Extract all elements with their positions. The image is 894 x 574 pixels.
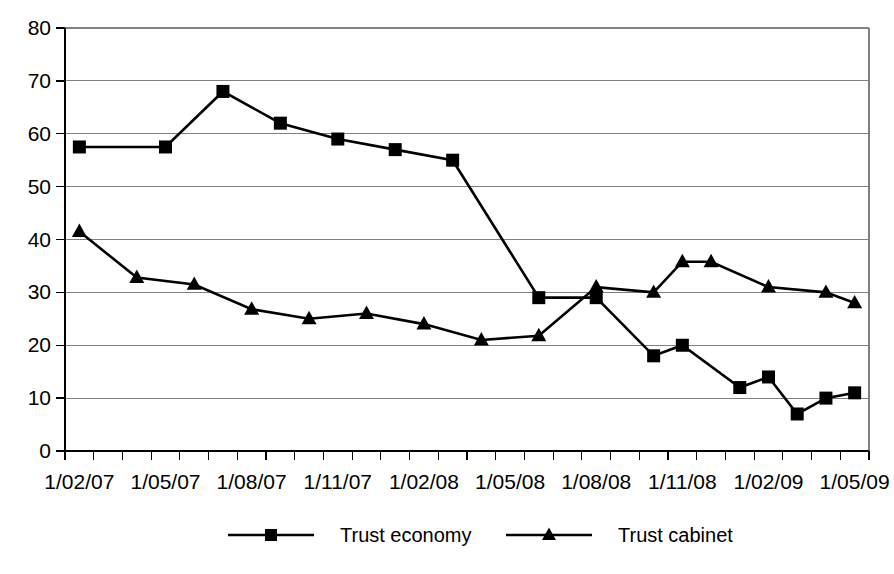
data-point-marker-triangle (542, 528, 556, 541)
data-point-marker-square (159, 140, 172, 153)
data-point-marker-square (532, 291, 545, 304)
data-point-marker-square (274, 117, 287, 130)
y-tick-label: 0 (39, 439, 51, 462)
data-point-marker-square (73, 140, 86, 153)
data-point-marker-square (676, 339, 689, 352)
y-tick-label: 30 (28, 280, 51, 303)
y-tick-label: 80 (28, 16, 51, 39)
x-tick-label: 1/05/07 (130, 470, 200, 493)
chart-container: 01020304050607080 1/02/071/05/071/08/071… (0, 0, 894, 574)
data-point-marker-square (590, 291, 603, 304)
legend-label: Trust economy (340, 524, 472, 546)
x-tick-label: 1/02/07 (44, 470, 114, 493)
y-tick-label: 20 (28, 333, 51, 356)
legend-label: Trust cabinet (618, 524, 733, 546)
x-tick-label: 1/05/08 (475, 470, 545, 493)
data-point-marker-square (819, 392, 832, 405)
y-tick-label: 10 (28, 386, 51, 409)
data-point-marker-square (791, 407, 804, 420)
series-trust-economy (73, 85, 861, 421)
x-tick-label: 1/08/07 (217, 470, 287, 493)
data-point-marker-square (848, 386, 861, 399)
data-point-marker-square (647, 349, 660, 362)
y-axis (56, 28, 65, 453)
x-tick-label: 1/02/08 (389, 470, 459, 493)
y-tick-label: 70 (28, 69, 51, 92)
series-line-trust-economy (79, 91, 854, 414)
data-point-marker-square (331, 133, 344, 146)
line-chart: 01020304050607080 1/02/071/05/071/08/071… (0, 0, 894, 574)
legend-item: Trust economy (228, 524, 472, 546)
x-tick-label: 1/11/07 (304, 470, 373, 493)
data-point-marker-square (265, 529, 277, 541)
x-axis (56, 451, 869, 460)
data-point-marker-square (216, 85, 229, 98)
gridlines (65, 28, 869, 451)
x-tick-label: 1/08/08 (561, 470, 631, 493)
y-tick-labels: 01020304050607080 (28, 16, 51, 462)
series-trust-cabinet (72, 224, 862, 346)
x-tick-labels: 1/02/071/05/071/08/071/11/071/02/081/05/… (44, 470, 889, 493)
data-point-marker-triangle (359, 306, 374, 319)
legend-item: Trust cabinet (506, 524, 733, 546)
data-point-marker-square (389, 143, 402, 156)
data-point-marker-square (762, 370, 775, 383)
x-tick-label: 1/11/08 (648, 470, 717, 493)
data-point-marker-triangle (589, 279, 604, 292)
chart-legend: Trust economyTrust cabinet (228, 524, 733, 546)
data-point-marker-square (446, 154, 459, 167)
y-tick-label: 60 (28, 122, 51, 145)
x-tick-label: 1/05/09 (820, 470, 890, 493)
y-tick-label: 50 (28, 175, 51, 198)
data-point-marker-triangle (72, 224, 87, 237)
data-point-marker-triangle (129, 270, 144, 283)
y-tick-label: 40 (28, 228, 51, 251)
data-point-marker-square (733, 381, 746, 394)
x-tick-label: 1/02/09 (733, 470, 803, 493)
